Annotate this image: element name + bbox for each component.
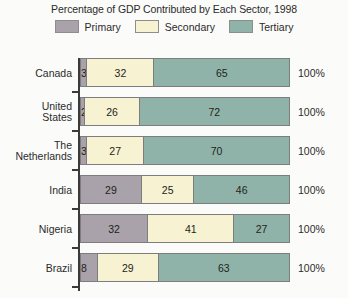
bar-segment-tertiary: 63 — [158, 253, 290, 282]
stacked-bar: 33265 — [80, 58, 290, 87]
row-total-label: 100% — [298, 223, 325, 235]
bar-segment-secondary: 29 — [97, 253, 158, 282]
row-total-label: 100% — [298, 262, 325, 274]
legend-swatch-primary — [55, 20, 79, 33]
row-label: Brazil — [0, 262, 72, 273]
row-label: Canada — [0, 67, 72, 78]
bar-segment-tertiary: 72 — [139, 97, 290, 126]
stacked-bar: 32770 — [80, 136, 290, 165]
bar-segment-tertiary: 27 — [233, 214, 290, 243]
stacked-bar: 292546 — [80, 175, 290, 204]
bar-row: India292546100% — [0, 175, 348, 204]
bar-segment-tertiary: 65 — [153, 58, 290, 87]
bar-row: Brazil82963100% — [0, 253, 348, 282]
row-total-label: 100% — [298, 106, 325, 118]
bar-row: Nigeria324127100% — [0, 214, 348, 243]
bar-row: UnitedStates22672100% — [0, 97, 348, 126]
axis-tick — [72, 247, 79, 249]
bar-row: TheNetherlands32770100% — [0, 136, 348, 165]
axis-tick — [72, 91, 79, 93]
row-label: UnitedStates — [0, 101, 72, 123]
row-label: Nigeria — [0, 223, 72, 234]
plot-area: Canada33265100%UnitedStates22672100%TheN… — [0, 55, 348, 295]
bar-segment-primary: 29 — [80, 175, 141, 204]
stacked-bar: 22672 — [80, 97, 290, 126]
axis-tick — [72, 286, 79, 288]
legend-item-primary: Primary — [55, 20, 121, 33]
axis-tick — [72, 169, 79, 171]
row-label-line2: States — [0, 112, 72, 123]
axis-tick — [72, 208, 79, 210]
bar-segment-tertiary: 46 — [193, 175, 290, 204]
axis-tick — [72, 130, 79, 132]
legend-item-secondary: Secondary — [135, 20, 215, 33]
row-total-label: 100% — [298, 184, 325, 196]
bar-segment-tertiary: 70 — [143, 136, 290, 165]
legend-swatch-tertiary — [229, 20, 253, 33]
row-label: TheNetherlands — [0, 140, 72, 162]
bar-segment-primary: 8 — [80, 253, 97, 282]
row-label: India — [0, 184, 72, 195]
legend-label-tertiary: Tertiary — [259, 21, 293, 33]
row-label-line2: Netherlands — [0, 151, 72, 162]
bar-segment-primary: 32 — [80, 214, 147, 243]
stacked-bar: 324127 — [80, 214, 290, 243]
bar-segment-secondary: 27 — [86, 136, 143, 165]
legend-swatch-secondary — [135, 20, 159, 33]
bar-segment-secondary: 41 — [147, 214, 233, 243]
chart-title: Percentage of GDP Contributed by Each Se… — [0, 3, 348, 15]
legend-label-secondary: Secondary — [165, 21, 215, 33]
bar-segment-secondary: 26 — [84, 97, 139, 126]
stacked-bar: 82963 — [80, 253, 290, 282]
row-total-label: 100% — [298, 145, 325, 157]
bar-row: Canada33265100% — [0, 58, 348, 87]
legend-label-primary: Primary — [85, 21, 121, 33]
row-total-label: 100% — [298, 67, 325, 79]
bar-segment-secondary: 25 — [141, 175, 194, 204]
legend-item-tertiary: Tertiary — [229, 20, 293, 33]
chart-legend: Primary Secondary Tertiary — [0, 20, 348, 33]
bar-segment-secondary: 32 — [86, 58, 153, 87]
